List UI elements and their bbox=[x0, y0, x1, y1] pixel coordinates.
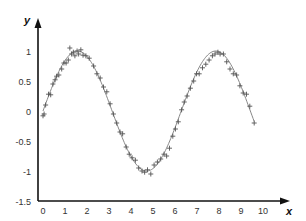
plus-marker-icon bbox=[104, 89, 109, 94]
x-tick-label: 9 bbox=[238, 206, 243, 216]
plus-marker-icon bbox=[111, 112, 116, 117]
plus-marker-icon bbox=[67, 46, 72, 51]
plus-marker-icon bbox=[136, 166, 141, 171]
x-axis-arrow-icon bbox=[280, 198, 290, 205]
y-axis-arrow-icon bbox=[35, 18, 42, 28]
x-tick-label: 5 bbox=[150, 206, 155, 216]
y-axis-title: y bbox=[23, 14, 31, 26]
y-tick-labels: 10.50-0.5-1-1.5 bbox=[15, 47, 31, 207]
plus-marker-icon bbox=[207, 58, 212, 63]
plus-marker-icon bbox=[124, 145, 129, 150]
y-tick-label: -1.5 bbox=[15, 197, 31, 207]
plus-marker-icon bbox=[155, 160, 160, 165]
plus-marker-icon bbox=[133, 158, 138, 163]
chart: y x 012345678910 10.50-0.5-1-1.5 bbox=[0, 0, 306, 221]
plus-marker-icon bbox=[145, 167, 150, 172]
plus-marker-icon bbox=[158, 157, 163, 162]
plus-marker-icon bbox=[152, 163, 157, 168]
x-tick-label: 0 bbox=[40, 206, 45, 216]
plus-marker-icon bbox=[179, 107, 184, 112]
x-tick-label: 10 bbox=[258, 206, 268, 216]
plus-marker-icon bbox=[200, 65, 205, 70]
data-points bbox=[41, 46, 257, 177]
x-tick-label: 8 bbox=[216, 206, 221, 216]
plus-marker-icon bbox=[140, 169, 145, 174]
plus-marker-icon bbox=[182, 100, 187, 105]
fit-curve bbox=[43, 51, 254, 171]
y-tick-label: -1 bbox=[23, 167, 31, 177]
y-tick-label: 1 bbox=[26, 47, 31, 57]
plus-marker-icon bbox=[241, 91, 246, 96]
x-tick-label: 2 bbox=[84, 206, 89, 216]
plus-marker-icon bbox=[228, 67, 233, 72]
plus-marker-icon bbox=[114, 121, 119, 126]
plus-marker-icon bbox=[101, 85, 106, 90]
plus-marker-icon bbox=[81, 53, 86, 58]
x-tick-label: 1 bbox=[62, 206, 67, 216]
plus-marker-icon bbox=[148, 172, 153, 177]
x-tick-label: 4 bbox=[128, 206, 133, 216]
plus-marker-icon bbox=[43, 103, 48, 108]
x-tick-label: 6 bbox=[172, 206, 177, 216]
y-tick-label: 0.5 bbox=[18, 77, 31, 87]
y-tick-label: -0.5 bbox=[15, 137, 31, 147]
x-tick-label: 7 bbox=[194, 206, 199, 216]
plus-marker-icon bbox=[197, 71, 202, 76]
plus-marker-icon bbox=[59, 67, 64, 72]
plus-marker-icon bbox=[185, 94, 190, 99]
plus-marker-icon bbox=[252, 121, 257, 126]
plus-marker-icon bbox=[203, 62, 208, 67]
x-axis-title: x bbox=[285, 205, 293, 217]
x-tick-labels: 012345678910 bbox=[40, 206, 268, 216]
fit-line bbox=[43, 51, 254, 171]
x-tick-label: 3 bbox=[106, 206, 111, 216]
plus-marker-icon bbox=[91, 64, 96, 69]
y-tick-label: 0 bbox=[26, 107, 31, 117]
